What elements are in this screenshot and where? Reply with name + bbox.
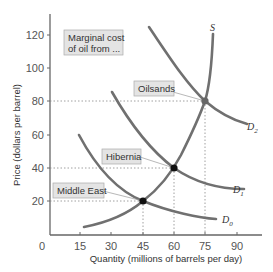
oilsands-label: Oilsands [138, 83, 175, 94]
y-tick-20: 20 [32, 195, 44, 207]
label-d0: D0 [221, 214, 233, 228]
x-tick-45: 45 [137, 240, 149, 252]
demand-curve-d0 [79, 135, 216, 219]
equilibrium-oilsands [201, 97, 208, 104]
y-tick-80: 80 [32, 95, 44, 107]
label-d2: D2 [246, 121, 258, 135]
equilibrium-middle-east [139, 197, 146, 204]
middle-east-label: Middle East [57, 185, 107, 196]
chart-svg: Price (dollars per barrel) 120 100 80 60… [0, 0, 273, 272]
x-tick-60: 60 [168, 240, 180, 252]
marginal-cost-line2: of oil from ... [68, 43, 120, 54]
x-tick-90: 90 [231, 240, 243, 252]
hibernia-label: Hibernia [106, 151, 142, 162]
demand-curve-d1 [112, 92, 244, 189]
x-tick-75: 75 [199, 240, 211, 252]
demand-curve-d2 [149, 27, 247, 124]
y-tick-60: 60 [32, 129, 44, 141]
y-ticks: 120 100 80 60 40 20 [26, 29, 50, 207]
guide-lines [50, 101, 205, 235]
x-tick-30: 30 [105, 240, 117, 252]
y-tick-40: 40 [32, 162, 44, 174]
x-axis-label: Quantity (millions of barrels per day) [90, 253, 243, 264]
equilibrium-hibernia [170, 164, 177, 171]
chart: Price (dollars per barrel) 120 100 80 60… [0, 0, 273, 272]
x-tick-15: 15 [74, 240, 86, 252]
y-tick-100: 100 [26, 62, 44, 74]
y-tick-120: 120 [26, 29, 44, 41]
y-axis-label: Price (dollars per barrel) [11, 84, 22, 186]
x-tick-0: 0 [39, 240, 45, 252]
label-s: S [210, 22, 215, 33]
marginal-cost-line1: Marginal cost [68, 32, 125, 43]
label-d1: D1 [232, 184, 244, 198]
